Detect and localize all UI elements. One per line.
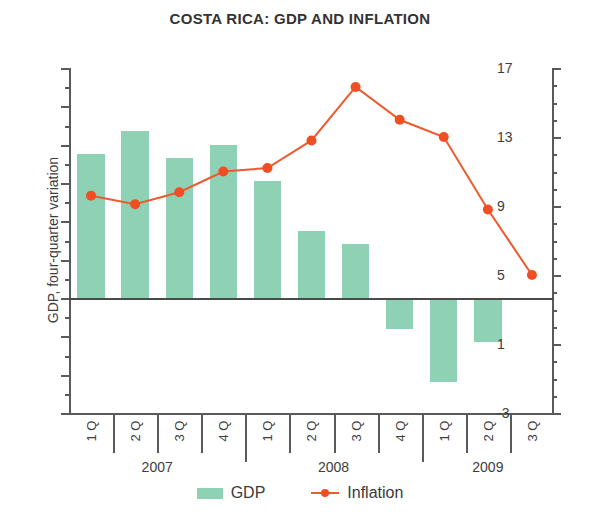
x-axis-quarter-label: 1 Q bbox=[84, 421, 99, 442]
x-axis-quarter-label: 3 Q bbox=[172, 421, 187, 442]
x-axis-quarter-cell: 4 Q bbox=[201, 413, 245, 453]
chart-container: COSTA RICA: GDP AND INFLATION GDP, four-… bbox=[0, 0, 600, 514]
left-tick-major bbox=[61, 260, 69, 262]
x-axis-year-label: 2009 bbox=[472, 459, 503, 475]
x-axis-quarter-cell: 1 Q bbox=[69, 413, 113, 453]
gdp-swatch-icon bbox=[197, 488, 223, 499]
inflation-line-marker-icon bbox=[311, 488, 339, 499]
x-axis-year-label: 2007 bbox=[142, 459, 173, 475]
x-axis-quarter-cell: 4 Q bbox=[378, 413, 422, 453]
x-axis-quarter-separator bbox=[113, 415, 115, 453]
x-axis: 1 Q2 Q3 Q4 Q1 Q2 Q3 Q4 Q1 Q2 Q3 Q2007200… bbox=[69, 413, 554, 479]
left-tick-major bbox=[61, 145, 69, 147]
x-axis-quarter-separator bbox=[289, 415, 291, 453]
legend-label-gdp: GDP bbox=[231, 484, 266, 502]
x-axis-quarter-label: 4 Q bbox=[392, 421, 407, 442]
right-tick-label: 9 bbox=[497, 198, 529, 214]
inflation-marker bbox=[130, 199, 140, 209]
inflation-polyline bbox=[91, 87, 532, 275]
left-tick-major bbox=[61, 336, 69, 338]
x-axis-quarter-label: 2 Q bbox=[128, 421, 143, 442]
inflation-marker bbox=[351, 82, 361, 92]
chart-title: COSTA RICA: GDP AND INFLATION bbox=[0, 10, 600, 27]
inflation-marker bbox=[439, 132, 449, 142]
x-axis-quarter-label: 4 Q bbox=[216, 421, 231, 442]
left-tick-major bbox=[61, 68, 69, 70]
legend-item-inflation: Inflation bbox=[311, 484, 403, 502]
inflation-marker bbox=[307, 135, 317, 145]
legend-item-gdp: GDP bbox=[197, 484, 266, 502]
x-axis-year-label: 2008 bbox=[318, 459, 349, 475]
x-axis-quarter-cell: 1 Q bbox=[422, 413, 466, 453]
left-tick-major bbox=[61, 106, 69, 108]
right-tick-label: 5 bbox=[497, 267, 529, 283]
x-axis-quarter-label: 1 Q bbox=[260, 421, 275, 442]
left-axis-title: GDP, four-quarter variation bbox=[45, 157, 61, 323]
x-axis-quarter-cell: 2 Q bbox=[466, 413, 510, 453]
plot-area: GDP, four-quarter variation Inflation, 1… bbox=[69, 68, 554, 413]
left-tick-major bbox=[61, 298, 69, 300]
x-axis-quarter-separator bbox=[466, 415, 468, 453]
inflation-marker bbox=[86, 191, 96, 201]
inflation-marker bbox=[483, 204, 493, 214]
x-axis-quarter-cell: 3 Q bbox=[157, 413, 201, 453]
x-axis-quarter-cell: 3 Q bbox=[510, 413, 554, 453]
x-axis-year-separator bbox=[422, 415, 424, 462]
inflation-marker bbox=[395, 115, 405, 125]
right-tick-label: 17 bbox=[497, 60, 529, 76]
chart-legend: GDP Inflation bbox=[0, 484, 600, 502]
left-tick-major bbox=[61, 221, 69, 223]
x-axis-quarter-label: 3 Q bbox=[524, 421, 539, 442]
inflation-marker bbox=[262, 163, 272, 173]
legend-label-inflation: Inflation bbox=[347, 484, 403, 502]
x-axis-quarter-cell: 2 Q bbox=[113, 413, 157, 453]
x-axis-quarter-label: 3 Q bbox=[348, 421, 363, 442]
left-tick-major bbox=[61, 413, 69, 415]
x-axis-quarter-separator bbox=[201, 415, 203, 453]
inflation-marker bbox=[218, 167, 228, 177]
x-axis-quarter-separator bbox=[378, 415, 380, 453]
x-axis-quarter-separator bbox=[334, 415, 336, 453]
x-axis-year-separator bbox=[245, 415, 247, 462]
inflation-marker bbox=[174, 187, 184, 197]
x-axis-quarter-separator bbox=[510, 415, 512, 453]
x-axis-quarter-cell: 1 Q bbox=[245, 413, 289, 453]
x-axis-quarter-label: 1 Q bbox=[436, 421, 451, 442]
left-tick-major bbox=[61, 375, 69, 377]
x-axis-quarter-separator bbox=[157, 415, 159, 453]
x-axis-quarter-label: 2 Q bbox=[480, 421, 495, 442]
x-axis-quarter-label: 2 Q bbox=[304, 421, 319, 442]
right-tick-label: 13 bbox=[497, 129, 529, 145]
left-tick-major bbox=[61, 183, 69, 185]
inflation-line-series bbox=[69, 68, 554, 413]
right-tick-label: 1 bbox=[497, 336, 529, 352]
x-axis-quarter-cell: 2 Q bbox=[289, 413, 333, 453]
x-axis-quarter-cell: 3 Q bbox=[334, 413, 378, 453]
